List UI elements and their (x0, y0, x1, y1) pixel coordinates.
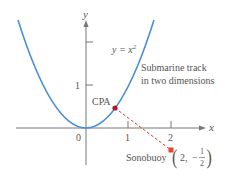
origin-label: 0 (76, 132, 81, 143)
equation-label: y = x2 (111, 43, 137, 55)
x-axis-label: x (208, 121, 214, 133)
sonobuoy-frac-num: 1 (200, 147, 204, 156)
sonobuoy-frac-den: 2 (200, 159, 204, 168)
cpa-point (112, 105, 117, 110)
sonobuoy-coord-open-paren: ( (172, 146, 177, 169)
x-axis-arrow-icon (199, 126, 206, 131)
cpa-label: CPA (92, 96, 111, 107)
sonobuoy-label: Sonobuoy (126, 152, 167, 163)
y-tick-label-1: 1 (75, 80, 80, 91)
sonobuoy-coord-sign: − (192, 152, 198, 163)
x-tick-label-2: 2 (168, 132, 173, 143)
sonobuoy-coord-x: 2, (180, 152, 188, 163)
diagram-canvas: x y 1 1 2 0 y = x2 Submarine track in tw… (0, 0, 229, 179)
submarine-track-label-line2: in two dimensions (141, 75, 214, 86)
y-axis-label: y (82, 8, 88, 20)
submarine-track-label-line1: Submarine track (141, 62, 207, 73)
x-tick-label-1: 1 (125, 132, 130, 143)
sonobuoy-coord-close-paren: ) (206, 146, 211, 169)
distance-dashed-line (115, 108, 171, 150)
y-axis-arrow-icon (84, 20, 89, 27)
